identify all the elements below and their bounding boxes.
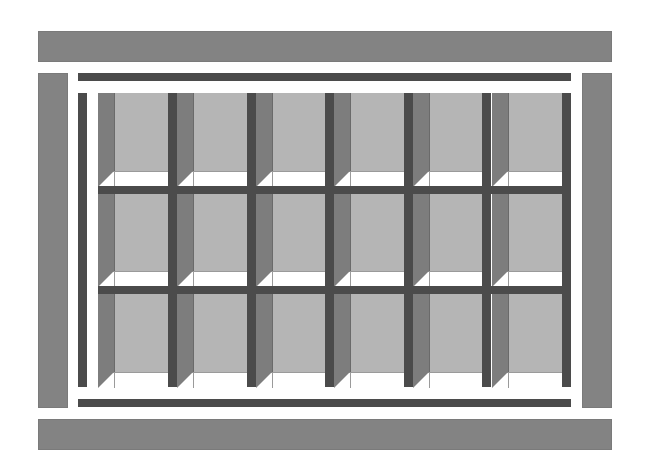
- cubby-side-wall: [492, 93, 508, 187]
- cubby: [492, 294, 562, 388]
- cubby-side-wall: [334, 93, 350, 187]
- cubby-side-wall: [413, 93, 429, 187]
- cubby: [98, 93, 168, 187]
- cubby: [334, 93, 404, 187]
- shelf-board: [98, 186, 571, 194]
- cubby-side-wall: [256, 193, 272, 287]
- divider-post: [168, 93, 177, 387]
- cubby: [492, 93, 562, 187]
- divider-post: [404, 93, 413, 387]
- cubby-back-panel: [350, 294, 404, 372]
- cubby-side-wall: [256, 294, 272, 388]
- cubby-back-panel: [193, 294, 247, 372]
- cubby-side-wall: [98, 193, 114, 287]
- cubby-side-wall: [413, 193, 429, 287]
- cubby: [334, 294, 404, 388]
- left-side-panel: [38, 73, 68, 408]
- cubby-side-wall: [256, 93, 272, 187]
- divider-post: [482, 93, 491, 387]
- cubby-side-wall: [177, 294, 193, 388]
- cubby-side-wall: [98, 294, 114, 388]
- divider-post: [247, 93, 256, 387]
- cubby-back-panel: [429, 193, 482, 271]
- cubby-side-wall: [334, 294, 350, 388]
- bottom-board: [38, 419, 612, 450]
- cubby-back-panel: [350, 193, 404, 271]
- divider-post: [325, 93, 334, 387]
- cubby-back-panel: [429, 294, 482, 372]
- cubby-back-panel: [114, 93, 168, 171]
- cubby-side-wall: [177, 193, 193, 287]
- cubby-back-panel: [429, 93, 482, 171]
- cubby-back-panel: [114, 193, 168, 271]
- cubby-side-wall: [492, 193, 508, 287]
- cubby-back-panel: [508, 93, 562, 171]
- cubby: [98, 294, 168, 388]
- bottom-rail: [78, 399, 571, 407]
- cubby: [413, 193, 482, 287]
- cubby-back-panel: [114, 294, 168, 372]
- cubby-back-panel: [272, 294, 325, 372]
- cubby-side-wall: [334, 193, 350, 287]
- shelf-board: [98, 286, 571, 294]
- left-post: [78, 93, 87, 387]
- cubby: [334, 193, 404, 287]
- cubby: [256, 294, 325, 388]
- cubby-side-wall: [413, 294, 429, 388]
- cubby: [256, 193, 325, 287]
- cubby: [256, 93, 325, 187]
- cubby: [98, 193, 168, 287]
- top-board: [38, 31, 612, 62]
- cubby: [492, 193, 562, 287]
- right-side-panel: [582, 73, 612, 408]
- divider-post: [562, 93, 571, 387]
- cubby-back-panel: [272, 93, 325, 171]
- cubby-back-panel: [193, 93, 247, 171]
- cubby: [177, 294, 247, 388]
- cubby-back-panel: [508, 294, 562, 372]
- cubby: [413, 93, 482, 187]
- cubby: [177, 193, 247, 287]
- cubby-back-panel: [272, 193, 325, 271]
- cubby-side-wall: [98, 93, 114, 187]
- cubby-back-panel: [193, 193, 247, 271]
- top-rail: [78, 73, 571, 81]
- cubby-back-panel: [350, 93, 404, 171]
- cubby-back-panel: [508, 193, 562, 271]
- cubby-side-wall: [177, 93, 193, 187]
- cubby: [413, 294, 482, 388]
- cubby: [177, 93, 247, 187]
- cubby-side-wall: [492, 294, 508, 388]
